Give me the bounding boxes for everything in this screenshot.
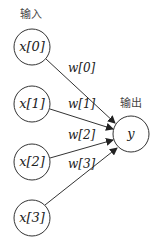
input-1-text: x[1] <box>19 96 46 111</box>
weight-2-text: w[2] <box>68 128 96 142</box>
weight-1-text: w[1] <box>68 97 96 111</box>
perceptron-diagram: x[0] x[1] x[2] x[3] y w[0] w[1] w[2] w[3… <box>0 0 160 244</box>
edge-w2 <box>50 140 113 158</box>
weight-0-text: w[0] <box>68 61 96 75</box>
output-text: y <box>126 126 135 141</box>
input-2-text: x[2] <box>19 154 46 169</box>
input-3-text: x[3] <box>19 210 46 225</box>
weight-3-text: w[3] <box>68 157 96 171</box>
input-0-text: x[0] <box>19 39 46 54</box>
